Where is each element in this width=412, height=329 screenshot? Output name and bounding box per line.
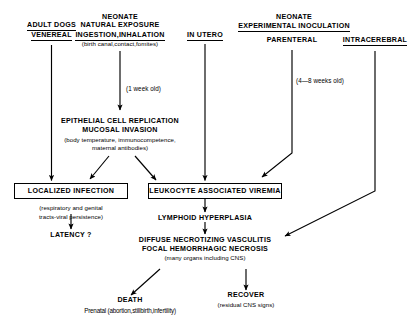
node-lymphoid-hyperplasia: LYMPHOID HYPERPLASIA	[145, 215, 265, 223]
node-epithelial-line1: EPITHELIAL CELL REPLICATION	[47, 118, 193, 126]
header-parenteral: PARENTERAL	[255, 37, 329, 45]
node-death-detail: Prenatal (abortion,stillbirth,infertilit…	[36, 308, 224, 315]
node-localized-infection-box: LOCALIZED INFECTION	[14, 183, 128, 199]
timing-four-to-eight-weeks: (4—8 weeks old)	[296, 78, 372, 85]
header-neonate-natural-line2: NATURAL EXPOSURE	[62, 22, 178, 30]
header-neonate-experimental-line2: EXPERIMENTAL INOCULATION	[228, 23, 360, 32]
node-recover-label: RECOVER	[212, 292, 280, 300]
edge-parenteral-to-viremia	[262, 50, 292, 177]
node-localized-infection-detail-line1: (respiratory and genital	[11, 205, 131, 212]
timing-one-week: (1 week old)	[126, 86, 188, 93]
node-vasculitis-line1: DIFFUSE NECROTIZING VASCULITIS	[132, 237, 278, 245]
header-ingestion-detail: (birth canal,contact,fomites)	[62, 41, 178, 48]
edge-epithelial-to-viremia	[135, 156, 156, 180]
node-viremia-box: LEUKOCYTE ASSOCIATED VIREMIA	[148, 183, 282, 199]
edge-epithelial-to-localized	[90, 156, 109, 179]
node-death-label: DEATH	[95, 297, 165, 305]
header-in-utero: IN UTERO	[176, 32, 234, 41]
edge-vasculitis-to-death	[131, 269, 160, 295]
node-latency: LATENCY ?	[38, 232, 104, 240]
node-vasculitis-line3: (many organs including CNS)	[132, 255, 278, 262]
header-intracerebral: INTRACEREBRAL	[336, 37, 412, 46]
node-epithelial-line2: MUCOSAL INVASION	[47, 127, 193, 135]
node-vasculitis-line2: FOCAL HEMORRHAGIC NECROSIS	[132, 246, 278, 254]
node-localized-infection-detail-line2: tracts-viral persistence)	[11, 214, 131, 221]
node-recover-detail: (residual CNS signs)	[200, 302, 292, 309]
node-epithelial-line3: (body temperature, immunocompetence,	[43, 137, 197, 144]
node-epithelial-line4: maternal antibodies)	[47, 145, 193, 152]
header-neonate-experimental-line1: NEONATE	[228, 14, 360, 22]
